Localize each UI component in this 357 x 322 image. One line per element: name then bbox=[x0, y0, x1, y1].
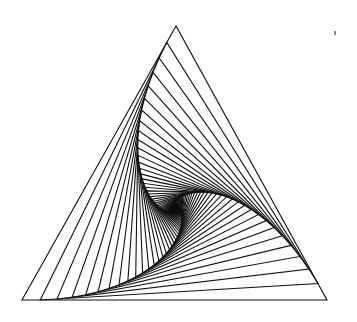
nested-triangle-lines bbox=[22, 26, 327, 300]
whirl-triangle-diagram bbox=[0, 0, 357, 322]
inscribed-triangle bbox=[22, 26, 327, 300]
inscribed-triangle bbox=[40, 42, 318, 300]
inscribed-triangle bbox=[72, 72, 300, 297]
scan-speck bbox=[334, 31, 336, 35]
